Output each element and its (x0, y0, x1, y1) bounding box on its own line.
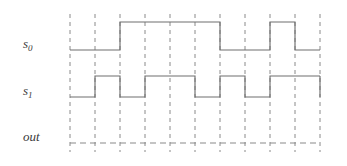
waveform-s1 (70, 76, 320, 97)
timing-diagram-canvas: s0s1out (0, 0, 347, 166)
signal-labels-group: s0s1out (23, 36, 40, 144)
timing-diagram-figure: s0s1out (0, 0, 347, 166)
signal-label-s0-subscript: 0 (28, 43, 33, 53)
signal-label-s1: s1 (23, 83, 33, 100)
waveform-s0 (70, 22, 320, 50)
signal-label-out: out (23, 129, 40, 144)
signal-label-s1-subscript: 1 (28, 90, 33, 100)
signal-label-s0: s0 (23, 36, 33, 53)
